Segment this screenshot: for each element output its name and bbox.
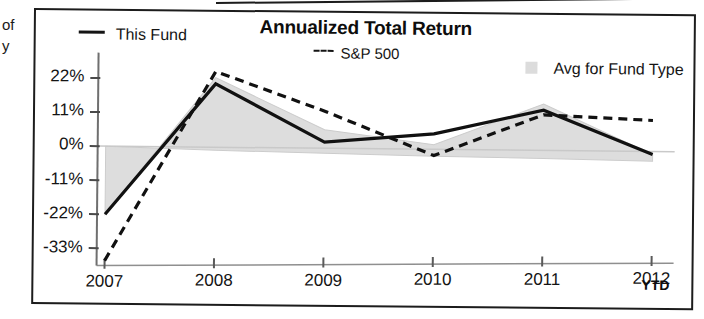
y-axis-tick-label: 22%: [31, 66, 84, 87]
plot-area: [33, 10, 696, 310]
page-edge-text-fragments: of y: [2, 14, 32, 56]
x-axis-tick-label: 2010: [398, 270, 468, 291]
y-axis-tick-label: -22%: [31, 202, 83, 223]
plot-baseline: [97, 258, 674, 272]
x-axis-tick-label: 2007: [69, 271, 139, 292]
x-axis-tick-label: 2009: [288, 270, 358, 291]
series-line-sp-500: [105, 70, 654, 265]
series-area-avg-for-fund-type: [105, 77, 653, 220]
ytd-annotation: YTD: [641, 277, 669, 293]
y-axis-tick-label: -11%: [31, 168, 83, 189]
page-fragment-line-2: y: [2, 35, 32, 56]
page-fragment-line-1: of: [2, 14, 32, 35]
y-axis-tick-label: -33%: [31, 236, 83, 257]
upper-box-border: [216, 0, 704, 4]
chart-panel: Annualized Total Return This Fund S&P 50…: [31, 8, 696, 310]
x-axis-tick-label: 2008: [179, 271, 249, 292]
x-axis-tick-label: 2011: [507, 269, 577, 290]
y-axis-tick-label: 0%: [31, 134, 84, 155]
y-axis-line: [97, 53, 99, 266]
y-axis-tick-label: 11%: [31, 100, 84, 121]
